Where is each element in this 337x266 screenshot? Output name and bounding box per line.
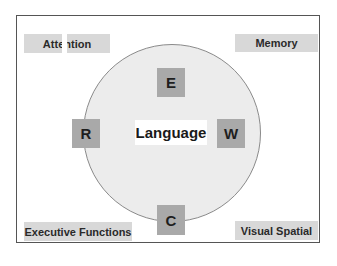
visual-spatial-label: Visual Spatial xyxy=(235,221,318,240)
memory-label: Memory xyxy=(235,34,318,52)
letter-r-box: R xyxy=(72,119,100,148)
letter-c-box: C xyxy=(157,205,185,235)
attention-label: Attention xyxy=(24,34,110,53)
language-center-label: Language xyxy=(135,120,207,145)
letter-e-box: E xyxy=(157,68,185,97)
executive-functions-label: Executive Functions xyxy=(24,222,132,241)
letter-w-box: W xyxy=(217,119,245,148)
attention-box-gap xyxy=(62,34,67,53)
